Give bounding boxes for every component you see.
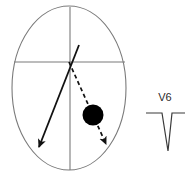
ecg-lead-label: V6 bbox=[158, 91, 171, 103]
focus-circle bbox=[83, 105, 104, 126]
ecg-trace-v6 bbox=[146, 113, 185, 151]
torso-outline bbox=[12, 6, 126, 170]
solid-vector-arrow bbox=[39, 45, 79, 147]
diagram-canvas: V6 bbox=[0, 0, 189, 184]
dashed-vector-arrow bbox=[69, 62, 106, 144]
vector-diagram-figure: V6 bbox=[0, 0, 189, 184]
